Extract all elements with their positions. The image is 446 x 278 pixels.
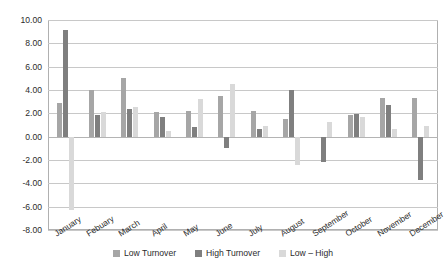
bar: [198, 99, 203, 137]
bar-chart: 10.008.006.004.002.000.00-2.00-4.00-6.00…: [0, 0, 446, 278]
bar: [424, 126, 429, 137]
bar: [186, 111, 191, 137]
bar-group: [211, 20, 243, 229]
y-axis-tick-label: -4.00: [0, 179, 42, 188]
legend-item-label: Low – High: [290, 249, 333, 258]
bar: [380, 98, 385, 137]
bar: [354, 114, 359, 137]
bar: [160, 117, 165, 137]
bar: [321, 137, 326, 163]
bar: [127, 109, 132, 137]
bar: [154, 112, 159, 137]
plot-area: [48, 20, 438, 230]
bar: [283, 119, 288, 137]
bar-group: [372, 20, 404, 229]
bar: [121, 78, 126, 137]
legend-item[interactable]: High Turnover: [195, 249, 260, 258]
bar: [133, 107, 138, 137]
bar: [192, 127, 197, 137]
legend-item[interactable]: Low Turnover: [113, 249, 176, 258]
bar: [101, 112, 106, 137]
bar: [251, 111, 256, 137]
bar-group: [49, 20, 81, 229]
bar: [386, 105, 391, 137]
legend-swatch-icon: [113, 250, 120, 257]
y-axis-tick-label: 4.00: [0, 86, 42, 95]
bar: [418, 137, 423, 181]
bar-group: [308, 20, 340, 229]
y-axis-tick-label: 8.00: [0, 39, 42, 48]
bar: [224, 137, 229, 148]
legend-swatch-icon: [195, 250, 202, 257]
bar-group: [146, 20, 178, 229]
bar: [327, 122, 332, 137]
y-axis-tick-label: 0.00: [0, 132, 42, 141]
y-axis-tick-label: -8.00: [0, 226, 42, 235]
legend-item[interactable]: Low – High: [279, 249, 333, 258]
y-axis-tick-label: 2.00: [0, 109, 42, 118]
y-axis-tick-label: -2.00: [0, 156, 42, 165]
legend-item-label: High Turnover: [206, 249, 260, 258]
bar-group: [243, 20, 275, 229]
y-axis-tick-label: -6.00: [0, 202, 42, 211]
bar: [412, 98, 417, 137]
y-axis-tick-label: 10.00: [0, 16, 42, 25]
bar: [230, 84, 235, 137]
bar-group: [275, 20, 307, 229]
bar-group: [178, 20, 210, 229]
bar: [392, 129, 397, 137]
legend-item-label: Low Turnover: [124, 249, 176, 258]
bar: [348, 115, 353, 137]
bar: [218, 96, 223, 136]
bar-group: [340, 20, 372, 229]
bar: [263, 126, 268, 137]
bar: [89, 90, 94, 137]
bar: [63, 30, 68, 137]
bar: [166, 131, 171, 137]
bar: [57, 103, 62, 136]
chart-legend: Low TurnoverHigh TurnoverLow – High: [0, 249, 446, 258]
plot-border-right: [437, 20, 438, 230]
bar: [295, 137, 300, 165]
bar-group: [81, 20, 113, 229]
bar: [69, 137, 74, 210]
y-axis-tick-label: 6.00: [0, 62, 42, 71]
bar: [95, 115, 100, 137]
y-axis-labels: 10.008.006.004.002.000.00-2.00-4.00-6.00…: [0, 20, 44, 230]
bar: [289, 90, 294, 137]
bar-group: [405, 20, 437, 229]
bar: [360, 117, 365, 137]
bar-groups: [49, 20, 437, 229]
bar-group: [114, 20, 146, 229]
legend-swatch-icon: [279, 250, 286, 257]
bar: [257, 129, 262, 137]
